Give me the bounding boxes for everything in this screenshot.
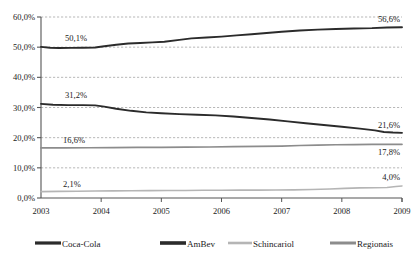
y-tick-label: 40,0% <box>13 72 35 82</box>
value-label-regionais-end: 17,8% <box>378 147 400 157</box>
line-chart: 0,0%10,0%20,0%30,0%40,0%50,0%60,0%200320… <box>0 0 412 261</box>
x-tick-label: 2009 <box>394 206 411 216</box>
legend-label-ambev: AmBev <box>187 239 215 249</box>
x-tick-label: 2005 <box>153 206 170 216</box>
y-tick-label: 0,0% <box>17 193 35 203</box>
x-tick-label: 2007 <box>273 206 290 216</box>
value-label-schincariol-start: 2,1% <box>63 179 81 189</box>
x-tick-label: 2006 <box>213 206 230 216</box>
legend-label-schincariol: Schincariol <box>253 239 294 249</box>
y-tick-label: 30,0% <box>13 103 35 113</box>
legend-label-regionais: Regionais <box>357 239 393 249</box>
value-label-ambev-end: 21,6% <box>378 120 400 130</box>
chart-canvas: 0,0%10,0%20,0%30,0%40,0%50,0%60,0%200320… <box>0 0 412 261</box>
value-label-ambev-start: 31,2% <box>65 90 87 100</box>
series-line-ambev <box>41 104 402 133</box>
series-line-regionais <box>41 144 402 148</box>
y-tick-label: 50,0% <box>13 42 35 52</box>
series-line-schincariol <box>41 186 402 192</box>
chart-root: 0,0%10,0%20,0%30,0%40,0%50,0%60,0%200320… <box>0 0 412 261</box>
value-label-schincariol-end: 4,0% <box>382 172 400 182</box>
x-tick-label: 2008 <box>333 206 350 216</box>
y-tick-label: 10,0% <box>13 163 35 173</box>
value-label-coca-cola-end: 56,6% <box>378 14 400 24</box>
y-tick-label: 60,0% <box>13 12 35 22</box>
y-tick-label: 20,0% <box>13 133 35 143</box>
x-tick-label: 2004 <box>93 206 111 216</box>
value-label-regionais-start: 16,6% <box>63 135 85 145</box>
x-tick-label: 2003 <box>33 206 50 216</box>
legend-label-coca-cola: Coca-Cola <box>62 239 101 249</box>
value-label-coca-cola-start: 50,1% <box>65 33 87 43</box>
series-line-coca-cola <box>41 27 402 48</box>
